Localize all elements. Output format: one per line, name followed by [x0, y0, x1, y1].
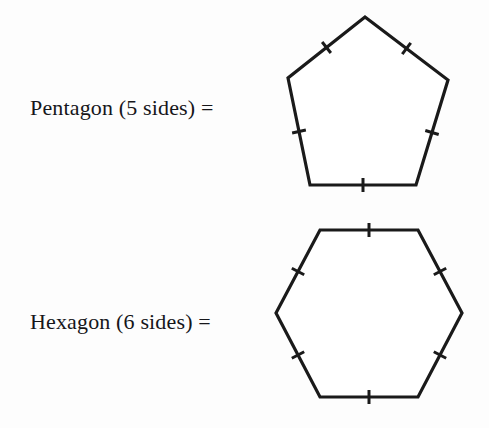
pentagon-label: Pentagon (5 sides) = — [30, 95, 213, 121]
hexagon-row: Hexagon (6 sides) = — [0, 214, 489, 428]
hexagon-label: Hexagon (6 sides) = — [30, 309, 211, 335]
hexagon-outline — [276, 230, 462, 397]
pentagon-outline — [288, 17, 448, 185]
hexagon-figure — [262, 214, 489, 428]
figure-root: Pentagon (5 sides) = Hexagon (6 sides) = — [0, 0, 489, 428]
pentagon-row: Pentagon (5 sides) = — [0, 0, 489, 214]
pentagon-figure — [262, 0, 489, 214]
